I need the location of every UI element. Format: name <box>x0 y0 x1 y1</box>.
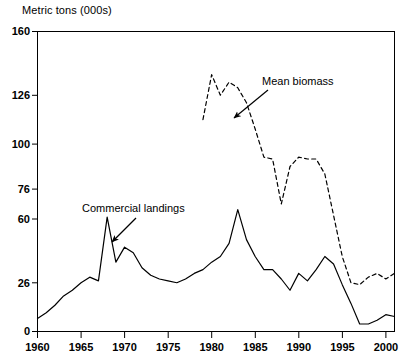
xtick-label-1990: 1990 <box>279 341 319 353</box>
xtick-label-1985: 1985 <box>235 341 275 353</box>
mean-biomass-label: Mean biomass <box>262 75 334 87</box>
plot-frame <box>38 32 395 332</box>
ytick-label-126: 126 <box>2 89 30 101</box>
ytick-label-160: 160 <box>2 25 30 37</box>
ytick-label-100: 100 <box>2 138 30 150</box>
series-mean-biomass <box>203 75 395 285</box>
xtick-label-1980: 1980 <box>192 341 232 353</box>
xtick-label-1960: 1960 <box>18 341 58 353</box>
plot-area <box>0 0 412 357</box>
commercial-landings-label: Commercial landings <box>82 202 185 214</box>
commercial-landings-annotation-arrow <box>112 218 136 242</box>
ytick-label-26: 26 <box>2 277 30 289</box>
annotation-arrows <box>112 90 268 242</box>
xtick-label-1995: 1995 <box>322 341 362 353</box>
mean-biomass-annotation-arrow <box>234 90 268 118</box>
xtick-label-1970: 1970 <box>105 341 145 353</box>
xtick-label-1975: 1975 <box>148 341 188 353</box>
chart-figure: Metric tons (000s) <box>0 0 412 357</box>
ytick-label-60: 60 <box>2 213 30 225</box>
xtick-label-2000: 2000 <box>366 341 406 353</box>
ytick-label-76: 76 <box>2 183 30 195</box>
x-tick-marks <box>38 332 386 339</box>
y-tick-marks <box>32 32 38 332</box>
series-commercial-landings <box>38 210 395 324</box>
ytick-label-0: 0 <box>2 325 30 337</box>
xtick-label-1965: 1965 <box>61 341 101 353</box>
